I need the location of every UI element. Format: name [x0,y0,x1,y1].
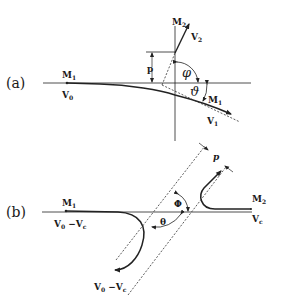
m2-label: M2 [172,17,186,28]
phi-label: φ [182,65,192,80]
v2-label: V2 [190,32,202,43]
m2-trajectory [201,171,251,209]
p-arrow-upper [199,143,208,150]
scattering-diagram: (a) M1 V0 M2 V2 p φ ϑ M1 V1 (b) [0,0,281,300]
panel-a-label: (a) [6,75,25,91]
dashed-line-right [128,167,226,295]
panel-b: (b) M1 V0 −Vc V0 −Vc M2 Vc p Φ θ [6,143,266,295]
dashed-line-left [116,146,205,260]
theta-arc [203,84,207,101]
vc-label: Vc [251,214,263,225]
m2-dashed-line [162,53,175,85]
m1-label: M1 [62,70,76,81]
theta-label-b: θ [160,217,166,227]
v0-minus-vc-label-in: V0 −Vc [53,219,87,230]
m2-dot [250,208,252,210]
asymptote-dashed [162,85,240,122]
m1-final-label: M1 [208,95,222,106]
p-label-b: p [213,152,220,162]
phi-label-b: Φ [174,199,182,209]
theta-label: ϑ [190,84,199,99]
panel-b-label: (b) [6,204,26,220]
m1-trajectory [67,83,231,114]
p-arrow-lower [225,166,233,172]
panel-a: (a) M1 V0 M2 V2 p φ ϑ M1 V1 [6,17,251,141]
m2-velocity-arrow [175,24,189,53]
v1-label: V1 [206,116,218,127]
m2-label-b: M2 [252,194,266,205]
v0-minus-vc-label-out: V0 −Vc [93,282,127,293]
m1-label-b: M1 [62,198,76,209]
theta-arc-b [152,214,181,227]
v0-label: V0 [61,90,73,101]
p-label: p [147,64,153,74]
